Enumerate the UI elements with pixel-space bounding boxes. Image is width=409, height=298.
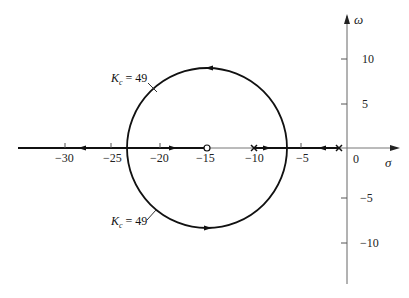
- y-tick-label: 10: [362, 52, 374, 66]
- zero-marker-icon: [204, 145, 210, 151]
- annotation-leader: [147, 210, 156, 220]
- y-tick-label: −10: [360, 236, 379, 250]
- y-tick-label: 5: [362, 97, 368, 111]
- sigma-axis-arrow-icon: [390, 145, 400, 151]
- arrow-top-icon: [205, 66, 213, 71]
- root-locus-plot: ω σ −30 −25 −20 −15 −10 −5 0 10 5 −5 −10: [0, 0, 409, 298]
- x-tick-label: −10: [245, 151, 264, 165]
- x-tick-label: −5: [296, 151, 309, 165]
- x-tick-label: −30: [55, 151, 74, 165]
- arrow-right-icon: [263, 146, 271, 151]
- x-tick-label: −15: [196, 151, 215, 165]
- arrow-right-icon: [169, 146, 177, 151]
- x-tick-label: −20: [150, 151, 169, 165]
- omega-label: ω: [354, 12, 363, 27]
- x-tick-label: −25: [103, 151, 122, 165]
- kc-annotation-lower: Kc = 49: [110, 214, 147, 230]
- arrow-left-icon: [78, 146, 86, 151]
- sigma-label: σ: [385, 155, 392, 170]
- y-tick-label: −5: [360, 191, 373, 205]
- x-tick-label: 0: [353, 152, 359, 166]
- arrow-left-icon: [318, 146, 326, 151]
- omega-axis-arrow-icon: [344, 14, 350, 24]
- kc-annotation-upper: Kc = 49: [110, 71, 147, 87]
- arrow-bottom-icon: [204, 226, 212, 231]
